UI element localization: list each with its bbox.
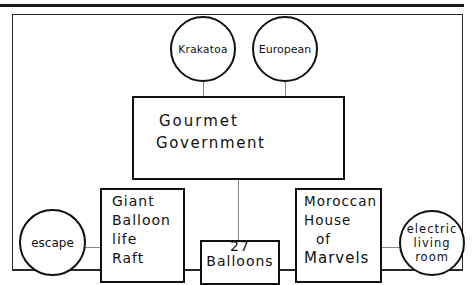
connector-gourmet-27-balloons (238, 180, 239, 241)
node-moroccan-line-2: House (304, 211, 380, 230)
node-27-balloons-line-1: 27 (202, 239, 278, 254)
node-gourmet-government: Gourmet Government (132, 96, 345, 180)
node-electric-line-2: living (407, 236, 457, 250)
node-electric-living-room-text: electric living room (407, 222, 457, 264)
node-giant-balloon-life-raft: Giant Balloon life Raft (100, 188, 185, 283)
node-krakatoa: Krakatoa (170, 16, 236, 82)
node-giant-balloon-line-4: Raft (112, 249, 183, 268)
connector-european-gourmet (285, 82, 286, 97)
node-gourmet-government-line-1: Gourmet (156, 110, 343, 132)
node-escape: escape (19, 209, 86, 276)
node-electric-living-room: electric living room (399, 210, 465, 276)
node-moroccan-line-3: of (304, 230, 380, 249)
node-27-balloons-line-2: Balloons (202, 254, 278, 269)
node-krakatoa-label: Krakatoa (178, 43, 227, 55)
node-european: European (252, 16, 318, 82)
node-giant-balloon-line-1: Giant (112, 192, 183, 211)
connector-krakatoa-gourmet (203, 82, 204, 97)
node-moroccan-line-4: Marvels (304, 249, 380, 268)
node-27-balloons: 27 Balloons (200, 240, 280, 285)
connector-moroccan-electric (381, 247, 400, 248)
node-electric-line-1: electric (407, 222, 457, 236)
node-moroccan-line-1: Moroccan (304, 192, 380, 211)
node-gourmet-government-line-2: Government (156, 132, 343, 154)
top-rule-divider (0, 4, 464, 7)
node-giant-balloon-line-2: Balloon (112, 211, 183, 230)
node-giant-balloon-line-3: life (112, 230, 183, 249)
connector-escape-giant-balloon (85, 247, 101, 248)
node-escape-label: escape (31, 236, 74, 250)
node-moroccan-house-of-marvels: Moroccan House of Marvels (295, 188, 382, 283)
node-european-label: European (259, 43, 311, 56)
node-electric-line-3: room (407, 250, 457, 264)
